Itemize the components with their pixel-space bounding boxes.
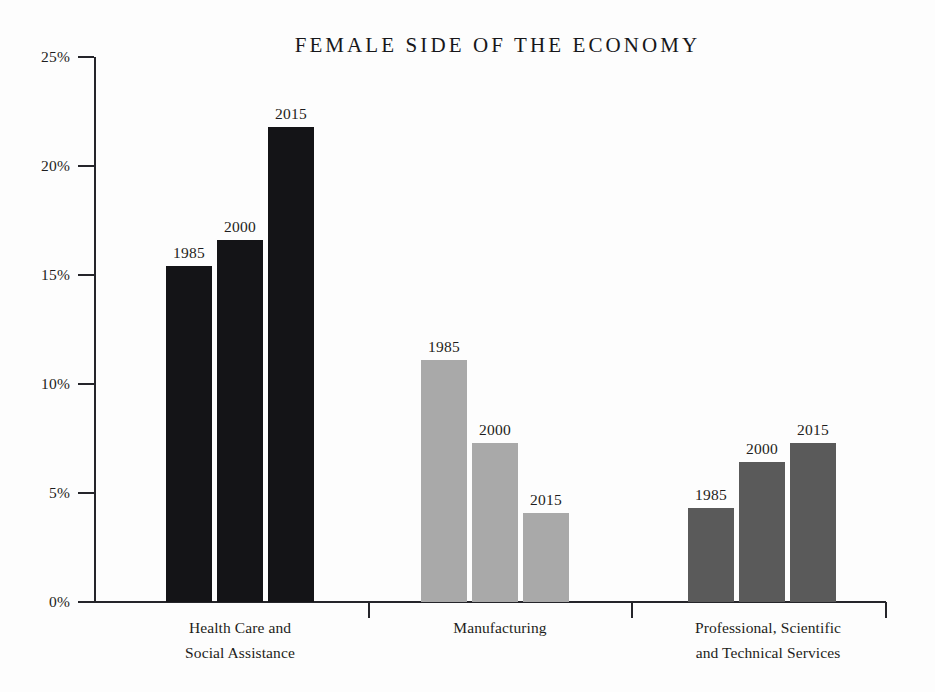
bar[interactable]: 2015 — [523, 513, 569, 602]
bar-series-label: 2000 — [224, 218, 256, 236]
y-axis-tick — [78, 492, 94, 494]
bar[interactable]: 2015 — [790, 443, 836, 602]
y-axis-tick — [78, 383, 94, 385]
y-axis-tick-label: 0% — [0, 593, 70, 611]
x-axis-category-label-line: Social Assistance — [90, 640, 390, 665]
bar[interactable]: 2000 — [217, 240, 263, 602]
bar-series-label: 2015 — [797, 421, 829, 439]
x-axis-category-label-line: and Technical Services — [618, 640, 918, 665]
y-axis-tick-label: 15% — [0, 266, 70, 284]
bar-series-label: 2000 — [746, 440, 778, 458]
bar[interactable]: 1985 — [166, 266, 212, 602]
y-axis-tick-label: 20% — [0, 157, 70, 175]
x-axis-category-label: Manufacturing — [350, 615, 650, 640]
bar[interactable]: 2015 — [268, 127, 314, 602]
y-axis-line — [94, 57, 96, 603]
bar-series-label: 1985 — [695, 486, 727, 504]
bar[interactable]: 1985 — [421, 360, 467, 602]
bar-series-label: 2000 — [479, 421, 511, 439]
page-title: FEMALE SIDE OF THE ECONOMY — [0, 33, 935, 58]
x-axis-category-label-line: Professional, Scientific — [618, 615, 918, 640]
y-axis-tick — [78, 56, 94, 58]
bar-series-label: 1985 — [428, 338, 460, 356]
bar[interactable]: 2000 — [739, 462, 785, 602]
bar-series-label: 1985 — [173, 244, 205, 262]
x-axis-category-label-line: Health Care and — [90, 615, 390, 640]
y-axis-tick — [78, 601, 94, 603]
bar-series-label: 2015 — [530, 491, 562, 509]
y-axis-tick — [78, 165, 94, 167]
y-axis-tick — [78, 274, 94, 276]
bar-series-label: 2015 — [275, 105, 307, 123]
x-axis-category-label-line: Manufacturing — [350, 615, 650, 640]
x-axis-category-label: Health Care andSocial Assistance — [90, 615, 390, 665]
bar[interactable]: 2000 — [472, 443, 518, 602]
y-axis-tick-label: 5% — [0, 484, 70, 502]
bar[interactable]: 1985 — [688, 508, 734, 602]
y-axis-tick-label: 10% — [0, 375, 70, 393]
y-axis-tick-label: 25% — [0, 48, 70, 66]
bar-chart: FEMALE SIDE OF THE ECONOMY 0%5%10%15%20%… — [0, 0, 935, 692]
x-axis-category-label: Professional, Scientificand Technical Se… — [618, 615, 918, 665]
